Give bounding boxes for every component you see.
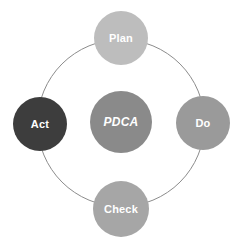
act-node: Act (13, 97, 67, 151)
plan-node: Plan (94, 11, 148, 65)
check-node: Check (93, 181, 149, 237)
do-label: Do (195, 117, 210, 129)
pdca-center-label: PDCA (104, 115, 139, 129)
plan-label: Plan (109, 32, 133, 44)
check-label: Check (104, 203, 138, 215)
pdca-diagram: PDCA Plan Do Check Act (0, 0, 241, 250)
pdca-center-node: PDCA (90, 91, 152, 153)
act-label: Act (31, 118, 49, 130)
do-node: Do (176, 96, 230, 150)
